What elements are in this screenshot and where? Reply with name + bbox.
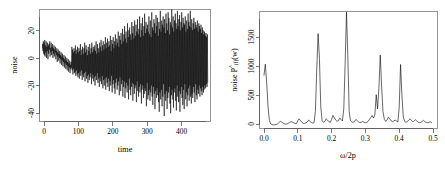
spectrum-line (264, 12, 432, 125)
right-plot-box (260, 12, 438, 129)
left-y-ticks (36, 31, 40, 113)
right-x-ticks (264, 129, 433, 133)
omega-divisor: /2p (345, 151, 355, 160)
time-series-panel: 20 0 -20 -40 0 100 200 300 400 time nois… (0, 0, 222, 170)
left-x-tick-3: 300 (142, 127, 153, 136)
left-x-ticks (44, 122, 182, 126)
right-y-axis-title: noise P^(f)(w) (229, 48, 240, 92)
right-x-tick-3: 0.3 (361, 134, 371, 143)
right-x-tick-1: 0.1 (293, 134, 303, 143)
left-y-tick-0: 20 (27, 27, 36, 35)
noise-series-line (42, 10, 207, 116)
ylabel-arg: (w) (230, 48, 239, 60)
right-y-tick-0: 0 (247, 122, 256, 126)
right-y-tick-1: 500 (247, 89, 256, 100)
right-y-tick-3: 1500 (247, 29, 256, 44)
left-x-tick-2: 200 (107, 127, 118, 136)
left-x-tick-0: 0 (42, 127, 46, 136)
two-panel-figure: 20 0 -20 -40 0 100 200 300 400 time nois… (0, 0, 445, 170)
left-y-tick-2: -20 (27, 80, 36, 90)
left-x-tick-1: 100 (73, 127, 84, 136)
right-y-tick-2: 1000 (247, 58, 256, 73)
ylabel-prefix: noise (230, 72, 239, 91)
right-y-ticks (256, 37, 260, 124)
left-y-tick-3: -40 (27, 108, 36, 118)
right-x-axis-title: ω/2p (340, 151, 356, 160)
right-x-tick-2: 0.2 (327, 134, 337, 143)
left-y-axis-title: noise (10, 56, 19, 74)
right-x-tick-5: 0.5 (428, 134, 438, 143)
left-x-tick-4: 400 (176, 127, 187, 136)
time-series-svg: 20 0 -20 -40 0 100 200 300 400 time nois… (0, 0, 222, 170)
periodogram-svg: 0 500 1000 1500 0.0 0.1 0.2 0.3 0.4 0.5 (222, 0, 445, 170)
periodogram-panel: 0 500 1000 1500 0.0 0.1 0.2 0.3 0.4 0.5 (222, 0, 445, 170)
right-x-tick-0: 0.0 (259, 134, 269, 143)
svg-text:noise P^(f)(w): noise P^(f)(w) (229, 48, 240, 92)
left-x-axis-title: time (118, 145, 133, 154)
left-y-tick-1: 0 (27, 56, 36, 60)
right-x-tick-4: 0.4 (395, 134, 405, 143)
